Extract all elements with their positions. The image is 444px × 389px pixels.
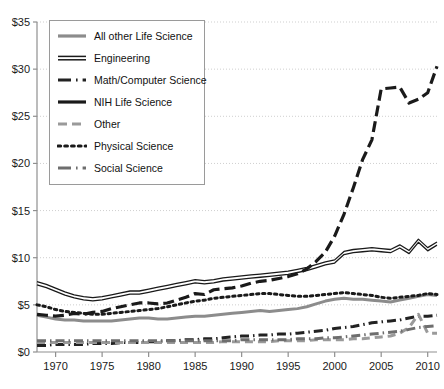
series-engineering [37,239,437,301]
legend-item-math-computer-science: Math/Computer Science [50,69,204,91]
legend-swatch-nih-life-science [57,96,87,108]
y-axis-tick-label: $25 [12,110,30,122]
legend-swatch-all-other-life-science [57,30,87,42]
legend-swatch-physical-science [57,140,87,152]
series-line [37,239,437,297]
series-line [37,293,437,315]
y-axis-tick-label: $0 [18,346,30,358]
y-axis-tick-label: $30 [12,63,30,75]
x-axis-tick-label: 1995 [276,360,300,372]
x-axis-tick-label: 2000 [322,360,346,372]
chart-legend: All other Life Science Engineering Math/… [49,20,205,185]
legend-label: Social Science [94,162,163,174]
y-axis-tick-label: $15 [12,205,30,217]
series-line [37,242,437,300]
x-axis-tick-label: 1970 [43,360,67,372]
x-axis-tick-label: 1985 [183,360,207,372]
series-physical-science [37,293,437,315]
x-axis-tick-label: 1980 [136,360,160,372]
legend-label: NIH Life Science [94,96,172,108]
series-other [37,314,437,342]
series-line [37,294,437,320]
legend-swatch-social-science [57,162,87,174]
legend-label: Other [94,118,120,130]
x-axis-tick-labels: 197019751980198519901995200020052010 [43,360,440,372]
legend-item-engineering: Engineering [50,47,204,69]
legend-label: Math/Computer Science [94,74,207,86]
legend-item-social-science: Social Science [50,157,204,179]
y-axis-tick-label: $20 [12,157,30,169]
chart-container: $0$5$10$15$20$25$30$35 19701975198019851… [0,0,444,389]
legend-item-physical-science: Physical Science [50,135,204,157]
x-axis-tick-label: 1990 [229,360,253,372]
x-axis-tick-label: 2005 [369,360,393,372]
y-axis-tick-label: $35 [12,16,30,28]
legend-item-nih-life-science: NIH Life Science [50,91,204,113]
legend-swatch-engineering [57,52,87,64]
x-axis-tick-label: 2010 [415,360,439,372]
series-line [37,314,437,342]
y-axis-tick-label: $10 [12,252,30,264]
legend-label: All other Life Science [94,30,193,42]
legend-item-all-other-life-science: All other Life Science [50,25,204,47]
y-axis-tick-labels: $0$5$10$15$20$25$30$35 [12,16,30,358]
series-all-other-life-science [37,294,437,320]
legend-item-other: Other [50,113,204,135]
legend-swatch-other [57,118,87,130]
legend-swatch-math-computer-science [57,74,87,86]
x-axis-tick-label: 1975 [90,360,114,372]
legend-label: Engineering [94,52,150,64]
legend-label: Physical Science [94,140,173,152]
y-axis-tick-label: $5 [18,299,30,311]
